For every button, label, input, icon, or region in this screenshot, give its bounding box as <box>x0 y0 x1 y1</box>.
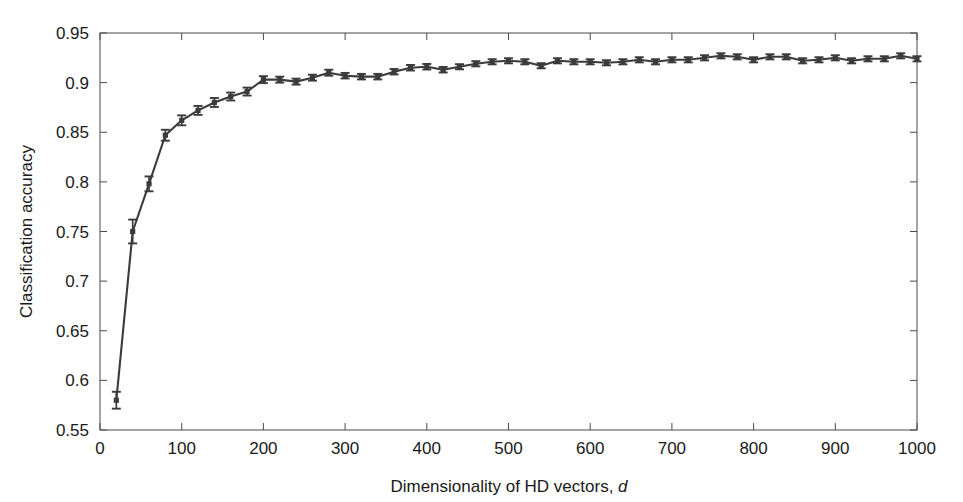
data-point-marker <box>718 53 723 58</box>
data-point-marker <box>195 108 200 113</box>
x-tick-label: 700 <box>658 439 686 458</box>
x-tick-label: 600 <box>576 439 604 458</box>
data-point-marker <box>326 70 331 75</box>
data-point-marker <box>490 59 495 64</box>
data-point-marker <box>914 56 919 61</box>
data-point-marker <box>800 58 805 63</box>
data-point-marker <box>784 54 789 59</box>
x-tick-label: 800 <box>739 439 767 458</box>
data-point-marker <box>457 64 462 69</box>
data-point-marker <box>735 54 740 59</box>
data-point-marker <box>392 69 397 74</box>
figure-container: 0.550.60.650.70.750.80.850.90.95 0100200… <box>0 0 963 502</box>
x-tick-label: 300 <box>331 439 359 458</box>
data-point-marker <box>114 398 119 403</box>
x-tick-label: 500 <box>494 439 522 458</box>
x-tick-label: 400 <box>413 439 441 458</box>
data-point-marker <box>261 77 266 82</box>
data-point-marker <box>244 89 249 94</box>
data-point-marker <box>555 58 560 63</box>
data-point-marker <box>130 229 135 234</box>
data-point-marker <box>898 53 903 58</box>
data-point-marker <box>522 59 527 64</box>
data-point-marker <box>506 58 511 63</box>
data-point-marker <box>816 57 821 62</box>
data-point-marker <box>441 67 446 72</box>
data-point-marker <box>686 57 691 62</box>
plot-background <box>100 33 917 430</box>
data-point-marker <box>669 57 674 62</box>
x-tick-label: 1000 <box>898 439 936 458</box>
y-tick-label: 0.85 <box>56 123 89 142</box>
y-tick-label: 0.9 <box>65 74 89 93</box>
data-point-marker <box>539 63 544 68</box>
accuracy-vs-dimensionality-chart: 0.550.60.650.70.750.80.850.90.95 0100200… <box>0 0 963 502</box>
data-point-marker <box>882 56 887 61</box>
data-point-marker <box>702 55 707 60</box>
data-point-marker <box>604 60 609 65</box>
data-point-marker <box>833 55 838 60</box>
data-point-marker <box>751 57 756 62</box>
data-point-marker <box>343 73 348 78</box>
data-point-marker <box>424 64 429 69</box>
data-point-marker <box>310 75 315 80</box>
data-point-marker <box>865 56 870 61</box>
x-tick-label: 0 <box>95 439 104 458</box>
y-tick-label: 0.7 <box>65 272 89 291</box>
data-point-marker <box>375 74 380 79</box>
data-point-marker <box>293 79 298 84</box>
data-point-marker <box>767 54 772 59</box>
data-point-marker <box>163 133 168 138</box>
data-point-marker <box>473 61 478 66</box>
data-point-marker <box>653 59 658 64</box>
x-tick-label: 900 <box>821 439 849 458</box>
y-tick-label: 0.8 <box>65 173 89 192</box>
data-point-marker <box>849 58 854 63</box>
y-tick-label: 0.55 <box>56 421 89 440</box>
y-tick-label: 0.75 <box>56 223 89 242</box>
data-point-marker <box>146 181 151 186</box>
data-point-marker <box>228 94 233 99</box>
data-point-marker <box>620 59 625 64</box>
y-tick-label: 0.6 <box>65 371 89 390</box>
data-point-marker <box>637 57 642 62</box>
y-tick-label: 0.95 <box>56 24 89 43</box>
data-point-marker <box>212 100 217 105</box>
y-tick-label: 0.65 <box>56 322 89 341</box>
data-point-marker <box>571 59 576 64</box>
data-point-marker <box>359 74 364 79</box>
data-point-marker <box>588 59 593 64</box>
data-point-marker <box>277 77 282 82</box>
x-axis-label: Dimensionality of HD vectors, d <box>390 477 628 496</box>
data-point-marker <box>179 118 184 123</box>
x-tick-label: 100 <box>168 439 196 458</box>
x-tick-label: 200 <box>249 439 277 458</box>
data-point-marker <box>408 65 413 70</box>
y-axis-label: Classification accuracy <box>17 145 36 318</box>
